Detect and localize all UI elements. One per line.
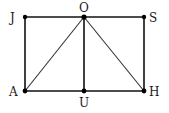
point-h	[142, 89, 147, 94]
point-a	[23, 89, 28, 94]
label-s: S	[149, 11, 157, 25]
label-a: A	[8, 85, 18, 99]
point-j	[23, 15, 27, 19]
geometry-diagram: J O S A U H	[0, 0, 169, 113]
segment-oa	[25, 17, 84, 91]
label-h: H	[149, 85, 159, 99]
point-o	[81, 14, 86, 19]
segment-oh	[84, 17, 144, 91]
label-j: J	[8, 11, 15, 25]
label-o: O	[79, 1, 89, 15]
point-u	[82, 89, 87, 94]
point-s	[142, 15, 146, 19]
label-u: U	[79, 96, 89, 110]
